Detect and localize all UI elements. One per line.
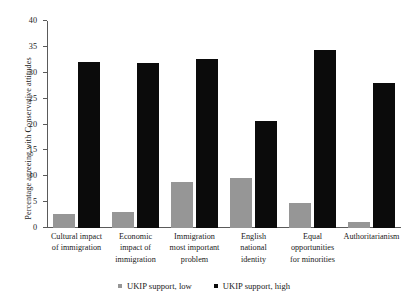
y-axis-tick-label: 5 xyxy=(33,197,37,206)
x-axis-category-label-line: problem xyxy=(166,254,223,265)
y-axis-tick-label: 15 xyxy=(29,145,37,154)
bar xyxy=(314,50,336,228)
x-axis-category-label-line: Cultural impact xyxy=(48,231,105,242)
y-axis-tick-label: 35 xyxy=(29,41,37,50)
bar-groups xyxy=(47,21,401,228)
x-axis-category-label: Economicimpact ofimmigration xyxy=(106,231,165,265)
plot-area: 0510152025303540 xyxy=(47,21,401,228)
x-axis-category-label-line: immigration xyxy=(107,254,164,265)
y-axis-title: Percentage agreeing with Conservative at… xyxy=(24,33,33,243)
y-axis-tick-label: 0 xyxy=(33,223,37,232)
x-axis-category-label-line: identity xyxy=(225,254,282,265)
x-axis-category-label-line: opportunities xyxy=(284,242,341,253)
x-axis-category-label-line: Authoritarianism xyxy=(343,231,400,242)
bar xyxy=(78,62,100,228)
y-axis-tick-label: 30 xyxy=(29,67,37,76)
bar-group xyxy=(224,21,283,228)
x-axis-category-label: Immigrationmost importantproblem xyxy=(165,231,224,265)
x-axis-category-labels: Cultural impactof immigrationEconomicimp… xyxy=(47,231,401,265)
x-axis-category-label-line: Equal xyxy=(284,231,341,242)
bar xyxy=(373,83,395,228)
x-axis-category-label: Englishnationalidentity xyxy=(224,231,283,265)
bar xyxy=(137,63,159,228)
legend-item-ukip-support-low: UKIP support, low xyxy=(118,281,192,291)
bar-group xyxy=(165,21,224,228)
bar-group xyxy=(47,21,106,228)
x-axis-category-label-line: impact of xyxy=(107,242,164,253)
bar-group xyxy=(283,21,342,228)
x-axis-category-label-line: national xyxy=(225,242,282,253)
x-axis-category-label-line: of immigration xyxy=(48,242,105,253)
bar xyxy=(53,214,75,228)
x-axis-category-label: Equalopportunitiesfor minorities xyxy=(283,231,342,265)
y-axis-tick-label: 10 xyxy=(29,171,37,180)
bar xyxy=(255,121,277,228)
bar-chart: Percentage agreeing with Conservative at… xyxy=(0,0,408,303)
y-axis-tick-label: 25 xyxy=(29,93,37,102)
bar-group xyxy=(106,21,165,228)
bar-group xyxy=(342,21,401,228)
legend-swatch-icon-low xyxy=(118,284,122,288)
legend-label-low: UKIP support, low xyxy=(127,281,192,291)
y-axis-tick-label: 40 xyxy=(29,16,37,25)
x-axis-category-label-line: English xyxy=(225,231,282,242)
x-axis-category-label-line: Economic xyxy=(107,231,164,242)
chart-legend: UKIP support, low UKIP support, high xyxy=(0,281,408,291)
bar xyxy=(196,59,218,228)
legend-label-high: UKIP support, high xyxy=(223,281,290,291)
x-axis-category-label-line: most important xyxy=(166,242,223,253)
x-axis-category-label-line: Immigration xyxy=(166,231,223,242)
bar xyxy=(171,182,193,228)
x-axis-category-label: Cultural impactof immigration xyxy=(47,231,106,265)
bar xyxy=(289,203,311,228)
bar xyxy=(230,178,252,228)
legend-swatch-icon-high xyxy=(214,284,218,288)
bar xyxy=(348,222,370,228)
legend-item-ukip-support-high: UKIP support, high xyxy=(214,281,290,291)
x-axis-category-label-line: for minorities xyxy=(284,254,341,265)
x-axis-category-label: Authoritarianism xyxy=(342,231,401,265)
bar xyxy=(112,212,134,228)
y-axis-tick-label: 20 xyxy=(29,119,37,128)
